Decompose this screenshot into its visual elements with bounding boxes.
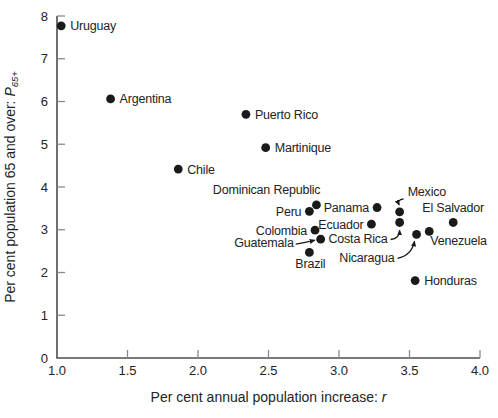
y-tick-label-5: 5 [41, 137, 48, 152]
point-label-uruguay: Uruguay [70, 19, 117, 33]
point-label-ecuador: Ecuador [318, 218, 363, 232]
y-axis-label: Per cent population 65 and over: P65+ [2, 71, 20, 303]
x-tick-label-2.5: 2.5 [259, 363, 277, 378]
point-puerto-rico [242, 110, 251, 119]
point-colombia [311, 226, 320, 235]
x-axis-label: Per cent annual population increase: r [151, 389, 388, 405]
chart-svg: 1.01.52.02.53.03.54.0012345678Per cent a… [0, 0, 498, 418]
y-tick-label-1: 1 [41, 308, 48, 323]
point-guatemala [316, 235, 325, 244]
point-label-puerto-rico: Puerto Rico [255, 108, 318, 122]
point-peru [305, 207, 314, 216]
y-tick-label-2: 2 [41, 265, 48, 280]
point-label-honduras: Honduras [424, 274, 477, 288]
point-label-guatemala: Guatemala [234, 236, 294, 250]
y-tick-label-8: 8 [41, 9, 48, 24]
point-label-el-salvador: El Salvador [422, 201, 484, 215]
point-label-brazil: Brazil [295, 257, 325, 271]
point-nicaragua [412, 230, 421, 239]
arrow-mexico [398, 199, 403, 205]
y-tick-label-3: 3 [41, 222, 48, 237]
point-label-peru: Peru [276, 205, 302, 219]
arrow-nicaragua [398, 241, 415, 258]
x-tick-label-1.5: 1.5 [118, 363, 136, 378]
point-mexico [395, 207, 404, 216]
point-label-argentina: Argentina [120, 92, 172, 106]
y-tick-label-6: 6 [41, 94, 48, 109]
x-tick-label-4.0: 4.0 [471, 363, 489, 378]
point-label-venezuela: Venezuela [430, 234, 487, 248]
point-label-chile: Chile [187, 163, 215, 177]
point-panama [373, 203, 382, 212]
scatter-chart: 1.01.52.02.53.03.54.0012345678Per cent a… [0, 0, 498, 418]
arrow-costa-rica [391, 230, 400, 239]
point-label-costa-rica: Costa Rica [328, 232, 387, 246]
point-brazil [305, 248, 314, 257]
arrow-guatemala [296, 240, 315, 244]
x-tick-label-1.0: 1.0 [48, 363, 66, 378]
point-el-salvador [449, 218, 458, 227]
point-label-dominican-republic: Dominican Republic [213, 183, 321, 197]
point-argentina [106, 95, 115, 104]
point-label-mexico: Mexico [408, 185, 447, 199]
point-dominican-republic [312, 201, 321, 210]
x-tick-label-2.0: 2.0 [189, 363, 207, 378]
y-tick-label-7: 7 [41, 51, 48, 66]
x-tick-label-3.0: 3.0 [330, 363, 348, 378]
point-honduras [411, 276, 420, 285]
point-martinique [261, 143, 270, 152]
point-label-martinique: Martinique [275, 141, 332, 155]
point-uruguay [57, 21, 66, 30]
point-label-panama: Panama [324, 201, 370, 215]
y-tick-label-0: 0 [41, 351, 48, 366]
point-label-nicaragua: Nicaragua [339, 251, 394, 265]
point-costa-rica [395, 218, 404, 227]
point-chile [174, 165, 183, 174]
x-tick-label-3.5: 3.5 [400, 363, 418, 378]
point-ecuador [367, 220, 376, 229]
y-tick-label-4: 4 [41, 180, 48, 195]
